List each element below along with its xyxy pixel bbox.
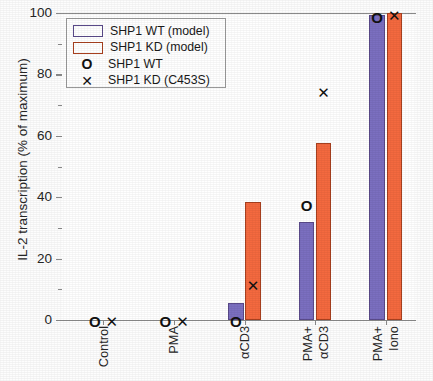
legend-swatch-wt-model — [73, 25, 103, 37]
x-tick-label-text: αCD3 — [317, 326, 330, 359]
legend-label-wt-data: SHP1 WT — [108, 58, 163, 71]
x-tick-label-text: PMA+ — [301, 326, 314, 361]
legend-item-wt-data: O SHP1 WT — [73, 56, 220, 72]
cross-marker-2: ✕ — [245, 278, 261, 293]
legend-item-kd-model: SHP1 KD (model) — [73, 40, 220, 56]
x-tick-label-0: Control — [96, 326, 111, 378]
x-tick-label-3: PMA+αCD3 — [300, 326, 331, 378]
x-tick-label-text: PMA+ — [371, 326, 384, 361]
y-tick-label-60: 60 — [0, 129, 52, 143]
x-tick-label-4: PMA+Iono — [370, 326, 401, 378]
x-tick-label-text: αCD3 — [238, 326, 251, 359]
x-tick-3 — [315, 320, 316, 325]
cross-marker-3: ✕ — [316, 85, 332, 100]
circle-marker-3: O — [299, 198, 315, 213]
bar-kd-model-2 — [245, 202, 261, 320]
legend-label-wt-model: SHP1 WT (model) — [110, 25, 210, 38]
x-tick-2 — [245, 320, 246, 325]
legend-label-kd-data: SHP1 KD (C453S) — [108, 74, 210, 87]
x-tick-1 — [174, 320, 175, 325]
circle-marker-4: O — [369, 10, 385, 25]
x-tick-label-text: Control — [97, 326, 110, 367]
legend-item-wt-model: SHP1 WT (model) — [73, 23, 220, 39]
circle-marker-icon: O — [73, 57, 101, 71]
chart-legend: SHP1 WT (model) SHP1 KD (model) O SHP1 W… — [66, 18, 226, 88]
bar-wt-model-3 — [299, 222, 315, 320]
x-tick-label-text: PMA — [167, 326, 180, 354]
y-tick-label-20: 20 — [0, 252, 52, 266]
x-tick-0 — [103, 320, 104, 325]
x-tick-4 — [386, 320, 387, 325]
chart-figure: IL-2 transcription (% of maximum) 020406… — [0, 0, 433, 381]
x-tick-label-text: Iono — [387, 326, 400, 351]
y-tick-label-0: 0 — [0, 313, 52, 327]
y-tick-label-40: 40 — [0, 190, 52, 204]
legend-item-kd-data: ✕ SHP1 KD (C453S) — [73, 73, 220, 89]
y-tick-label-80: 80 — [0, 67, 52, 81]
bar-kd-model-3 — [316, 143, 332, 320]
cross-marker-4: ✕ — [386, 8, 402, 23]
y-tick-0 — [56, 320, 62, 321]
legend-label-kd-model: SHP1 KD (model) — [110, 41, 208, 54]
legend-swatch-kd-model — [73, 42, 103, 54]
bar-kd-model-4 — [387, 13, 403, 320]
x-tick-label-2: αCD3 — [237, 326, 252, 378]
cross-marker-icon: ✕ — [73, 74, 101, 88]
x-tick-label-1: PMA — [166, 326, 181, 378]
bar-wt-model-4 — [369, 15, 385, 320]
y-tick-label-100: 100 — [0, 6, 52, 20]
